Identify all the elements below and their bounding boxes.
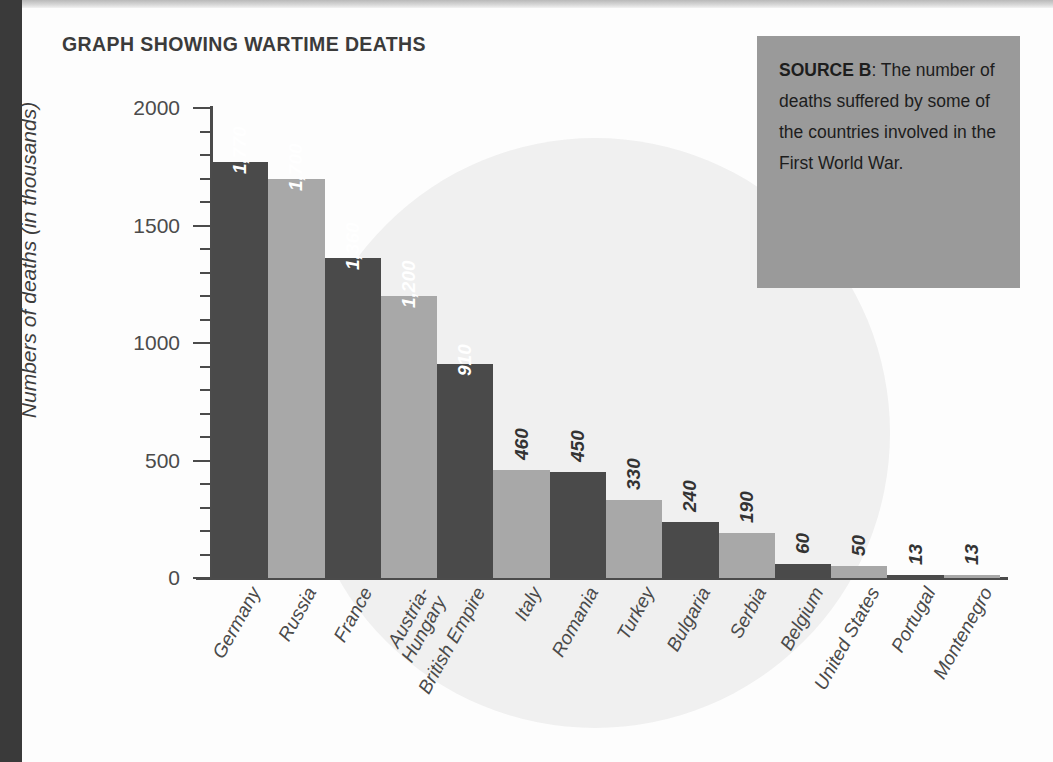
bar-value-label: 450: [567, 431, 589, 463]
x-axis-label-line: Bulgaria: [663, 584, 713, 654]
bar-value-label: 460: [511, 428, 533, 460]
bar-value-label: 910: [454, 344, 476, 376]
x-axis-label: Belgium: [776, 584, 826, 653]
x-axis-label: Serbia: [727, 584, 770, 641]
bar: 240: [662, 522, 718, 578]
bar-value-label: 1,200: [398, 260, 420, 308]
bar: 13: [887, 575, 943, 578]
x-axis-label: Russia: [275, 584, 320, 644]
bar-value-label: 60: [792, 533, 814, 554]
y-tick-minor: [200, 201, 210, 203]
y-tick-label: 500: [60, 449, 180, 473]
y-tick-label: 2000: [60, 96, 180, 120]
bar: 1,360: [325, 258, 381, 578]
x-axis-category-labels: GermanyRussiaFranceAustria-HungaryBritis…: [212, 584, 1002, 762]
y-tick-minor: [200, 389, 210, 391]
bar: 190: [719, 533, 775, 578]
bar: 1,200: [381, 296, 437, 578]
y-tick-major: [193, 460, 210, 462]
x-axis-label: Italy: [511, 584, 545, 624]
y-tick-label: 0: [60, 566, 180, 590]
y-tick-minor: [200, 413, 210, 415]
y-tick-major: [193, 225, 210, 227]
bar-value-label: 1,700: [285, 143, 307, 191]
x-axis-label-line: Germany: [209, 584, 264, 662]
bar: 1,700: [268, 179, 324, 579]
x-axis-label: Bulgaria: [663, 584, 713, 654]
x-axis-label: Montenegro: [929, 584, 995, 682]
bar-value-label: 13: [961, 544, 983, 565]
y-tick-minor: [200, 295, 210, 297]
page-title: GRAPH SHOWING WARTIME DEATHS: [62, 33, 426, 56]
y-tick-minor: [200, 554, 210, 556]
bar-series: 1,7701,7001,3601,20091046045033024019060…: [212, 108, 1002, 578]
y-tick-minor: [200, 483, 210, 485]
x-axis-label-line: Belgium: [776, 584, 826, 653]
bar-value-label: 240: [679, 480, 701, 512]
y-tick-minor: [200, 507, 210, 509]
bar: 60: [775, 564, 831, 578]
y-tick-major: [193, 342, 210, 344]
y-tick-minor: [200, 436, 210, 438]
x-axis-label: Germany: [209, 584, 264, 662]
x-axis-label-line: Italy: [511, 584, 545, 624]
source-callout-label: SOURCE B: [779, 60, 871, 80]
x-axis-label-line: Turkey: [613, 584, 657, 643]
bar: 50: [831, 566, 887, 578]
y-tick-minor: [200, 272, 210, 274]
bar: 910: [437, 364, 493, 578]
page-top-edge-shadow: [22, 0, 1053, 8]
source-callout-separator: :: [871, 60, 880, 80]
x-axis-label-line: Romania: [548, 584, 601, 660]
x-axis-label-line: France: [331, 584, 376, 645]
y-tick-minor: [200, 248, 210, 250]
y-tick-minor: [200, 319, 210, 321]
x-axis-label-line: Portugal: [888, 584, 939, 655]
y-tick-minor: [200, 530, 210, 532]
y-tick-major: [193, 577, 210, 579]
y-tick-label: 1000: [60, 331, 180, 355]
bar-value-label: 50: [848, 535, 870, 556]
x-axis-label: Turkey: [613, 584, 657, 643]
scanned-page: GRAPH SHOWING WARTIME DEATHS SOURCE B: T…: [0, 0, 1053, 762]
bar-value-label: 190: [736, 492, 758, 524]
y-tick-minor: [200, 154, 210, 156]
bar: 450: [550, 472, 606, 578]
y-tick-minor: [200, 131, 210, 133]
x-axis-label: Portugal: [888, 584, 939, 655]
bar: 13: [944, 575, 1000, 578]
bar: 330: [606, 500, 662, 578]
x-axis-label-line: Russia: [275, 584, 320, 644]
bar-value-label: 1,770: [229, 127, 251, 175]
bar-value-label: 13: [905, 544, 927, 565]
y-tick-major: [193, 107, 210, 109]
y-tick-label: 1500: [60, 214, 180, 238]
x-axis-label: France: [331, 584, 376, 645]
x-axis-label-line: Montenegro: [929, 584, 995, 682]
y-tick-minor: [200, 178, 210, 180]
bar-value-label: 1,360: [342, 223, 364, 271]
bar: 1,770: [212, 162, 268, 578]
x-axis-label-line: Serbia: [727, 584, 770, 641]
x-axis-label: Romania: [548, 584, 601, 660]
y-axis-title: Numbers of deaths (in thousands): [17, 25, 41, 495]
y-tick-minor: [200, 366, 210, 368]
bar-value-label: 330: [623, 459, 645, 491]
bar: 460: [493, 470, 549, 578]
